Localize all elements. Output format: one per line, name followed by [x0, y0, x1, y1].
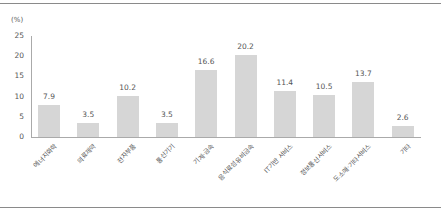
x-category-label: IT기반 서비스 [261, 141, 295, 175]
bar-value-label: 10.2 [108, 83, 148, 92]
bar [352, 82, 374, 137]
bar [156, 123, 178, 137]
bar [313, 95, 335, 137]
bar-value-label: 10.5 [304, 82, 344, 91]
x-category-label: 통신기기 [153, 141, 177, 165]
bar-value-label: 13.7 [343, 69, 383, 78]
y-axis-unit: (%) [11, 16, 23, 24]
y-tick-label: 0 [0, 132, 24, 141]
y-tick-label: 15 [0, 71, 24, 80]
bar-value-label: 7.9 [29, 92, 69, 101]
x-category-label: 의료제약 [74, 141, 98, 165]
x-category-label: 음식료섬유비금속 [215, 141, 256, 182]
bar-value-label: 20.2 [226, 42, 266, 51]
x-category-label: 에너지화학 [31, 141, 59, 169]
y-tick-label: 10 [0, 92, 24, 101]
bar [38, 105, 60, 137]
x-category-label: 기타 [397, 141, 413, 157]
y-tick-label: 5 [0, 112, 24, 121]
x-category-label: 도소매·기타서비스 [331, 141, 373, 183]
x-category-label: 기계·금속 [191, 141, 217, 167]
bar [195, 70, 217, 137]
y-tick-label: 25 [0, 31, 24, 40]
x-axis [31, 137, 421, 138]
bar [117, 96, 139, 137]
top-rule [0, 3, 441, 4]
bar [274, 91, 296, 137]
x-category-label: 정보통신서비스 [297, 141, 334, 178]
bar-value-label: 3.5 [147, 110, 187, 119]
bar [235, 55, 257, 137]
y-axis [31, 36, 32, 137]
bar-value-label: 16.6 [186, 57, 226, 66]
x-category-label: 전자부품 [114, 141, 138, 165]
bottom-rule [0, 207, 441, 208]
bar-value-label: 3.5 [68, 110, 108, 119]
y-tick-label: 20 [0, 51, 24, 60]
bar-value-label: 11.4 [265, 78, 305, 87]
bar [77, 123, 99, 137]
bar-value-label: 2.6 [383, 113, 423, 122]
bar [392, 126, 414, 137]
